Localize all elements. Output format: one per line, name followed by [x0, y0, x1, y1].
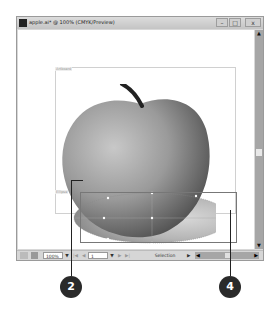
callout-badge-2: 2: [60, 276, 82, 298]
next-artboard-button[interactable]: ▶: [118, 252, 121, 259]
callout-leader-tick-2: [71, 180, 83, 181]
scroll-down-arrow-icon[interactable]: ▼: [255, 242, 263, 249]
callout-badge-4: 4: [219, 276, 241, 298]
artboard-navigator-icon[interactable]: [20, 252, 28, 259]
last-artboard-button[interactable]: ▶|: [125, 252, 130, 259]
status-bar: 100% ▼ |◀ ◀ 1 ▼ ▶ ▶| Selection ▶ ◀ ▶: [17, 250, 263, 260]
first-artboard-button[interactable]: |◀: [73, 252, 78, 259]
callout-leader-line-2: [71, 180, 72, 276]
vertical-scrollbar[interactable]: ▲ ▼: [255, 30, 263, 249]
scroll-up-arrow-icon[interactable]: ▲: [255, 30, 263, 37]
scroll-right-arrow-icon[interactable]: ▶: [254, 252, 258, 259]
selection-bounding-box[interactable]: [80, 192, 237, 243]
vertical-scroll-thumb[interactable]: [256, 149, 262, 156]
screen-mode-icon[interactable]: [31, 252, 38, 259]
selection-label: Ellipse: [55, 190, 68, 194]
maximize-button[interactable]: □: [229, 18, 241, 27]
artboard-label: Artboard: [55, 67, 72, 71]
status-menu-arrow-icon[interactable]: ▶: [187, 252, 190, 259]
title-bar[interactable]: apple.ai* @ 100% (CMYK/Preview) – □ x: [17, 17, 263, 29]
app-icon: [19, 19, 27, 27]
callout-leader-line-4: [230, 210, 231, 276]
horizontal-scrollbar[interactable]: ◀ ▶: [195, 252, 259, 259]
zoom-dropdown-arrow-icon[interactable]: ▼: [64, 252, 70, 259]
minimize-button[interactable]: –: [216, 18, 228, 27]
window-title: apple.ai* @ 100% (CMYK/Preview): [29, 19, 115, 25]
zoom-level-field[interactable]: 100%: [43, 252, 63, 259]
close-button[interactable]: x: [245, 18, 261, 27]
scroll-left-arrow-icon[interactable]: ◀: [196, 252, 200, 259]
document-canvas[interactable]: Artboard: [18, 30, 254, 249]
artboard-number-field[interactable]: 1: [88, 252, 108, 259]
previous-artboard-button[interactable]: ◀: [82, 252, 85, 259]
current-tool-status: Selection: [145, 252, 185, 259]
illustrator-document-window: apple.ai* @ 100% (CMYK/Preview) – □ x Ar…: [16, 16, 264, 261]
artboard-dropdown-arrow-icon[interactable]: ▼: [109, 252, 115, 259]
